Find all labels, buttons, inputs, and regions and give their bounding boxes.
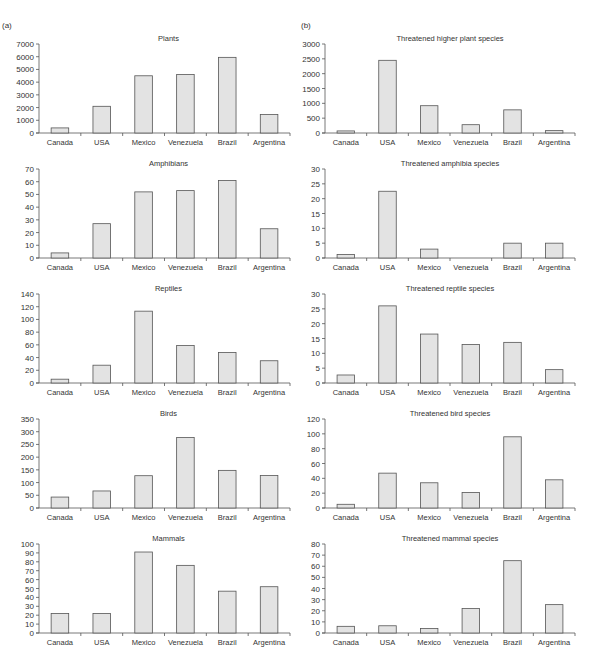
y-tick-label: 6000 xyxy=(16,53,34,62)
y-tick-label: 200 xyxy=(21,453,35,462)
y-tick-label: 0 xyxy=(316,629,321,638)
y-tick-label: 0 xyxy=(316,129,321,138)
x-category-label: USA xyxy=(94,513,109,522)
bar-brazil xyxy=(218,470,236,508)
y-tick-label: 100 xyxy=(21,540,35,549)
x-category-label: Mexico xyxy=(132,513,156,522)
bar-mexico xyxy=(135,476,153,508)
x-category-label: Venezuela xyxy=(453,638,489,647)
bar-argentina xyxy=(545,605,563,633)
bar-usa xyxy=(379,626,397,633)
x-category-label: Mexico xyxy=(132,138,156,147)
x-category-label: Venezuela xyxy=(168,638,204,647)
bar-usa xyxy=(379,191,397,258)
y-tick-label: 40 xyxy=(311,474,320,483)
y-tick-label: 20 xyxy=(25,229,34,238)
x-category-label: Mexico xyxy=(417,263,441,272)
y-tick-label: 0 xyxy=(30,129,35,138)
y-tick-label: 90 xyxy=(25,549,34,558)
bar-venezuela xyxy=(177,565,195,633)
chart-title: Threatened reptile species xyxy=(406,284,495,293)
x-category-label: Mexico xyxy=(132,638,156,647)
bar-canada xyxy=(51,253,69,258)
x-category-label: Canada xyxy=(333,513,360,522)
bar-venezuela xyxy=(177,191,195,258)
panel-label-a: (a) xyxy=(2,21,12,30)
x-category-label: Mexico xyxy=(417,138,441,147)
bar-mexico xyxy=(135,311,153,383)
x-category-label: Canada xyxy=(47,388,74,397)
y-tick-label: 350 xyxy=(21,415,35,424)
x-category-label: Brazil xyxy=(218,638,237,647)
x-category-label: Venezuela xyxy=(453,513,489,522)
chart-title: Threatened amphibia species xyxy=(401,159,500,168)
x-category-label: Brazil xyxy=(503,638,522,647)
x-category-label: Mexico xyxy=(417,638,441,647)
y-tick-label: 50 xyxy=(311,573,320,582)
x-category-label: Brazil xyxy=(503,138,522,147)
panel-label-b: (b) xyxy=(301,21,311,30)
x-category-label: Argentina xyxy=(538,638,571,647)
x-category-label: Venezuela xyxy=(453,388,489,397)
y-tick-label: 0 xyxy=(316,504,321,513)
bar-argentina xyxy=(545,131,563,133)
y-tick-label: 100 xyxy=(21,315,35,324)
chart-title: Plants xyxy=(158,34,179,43)
bar-usa xyxy=(93,106,111,133)
bar-canada xyxy=(51,497,69,508)
x-category-label: Brazil xyxy=(218,388,237,397)
x-category-label: Brazil xyxy=(218,138,237,147)
chart-plants: Plants01000200030004000500060007000Canad… xyxy=(0,30,298,155)
x-category-label: Venezuela xyxy=(453,263,489,272)
y-tick-label: 0 xyxy=(30,254,35,263)
y-tick-label: 2000 xyxy=(302,70,320,79)
x-category-label: Argentina xyxy=(253,138,286,147)
x-category-label: Argentina xyxy=(538,138,571,147)
bar-brazil xyxy=(504,243,522,258)
x-category-label: Canada xyxy=(47,513,74,522)
bar-venezuela xyxy=(462,609,480,633)
y-tick-label: 15 xyxy=(311,210,320,219)
bar-brazil xyxy=(504,561,522,633)
y-tick-label: 20 xyxy=(311,195,320,204)
y-tick-label: 10 xyxy=(25,241,34,250)
y-tick-label: 70 xyxy=(25,567,34,576)
y-tick-label: 0 xyxy=(30,629,35,638)
chart-title: Threatened higher plant species xyxy=(396,34,503,43)
bar-brazil xyxy=(504,437,522,508)
x-category-label: Brazil xyxy=(218,513,237,522)
x-category-label: Brazil xyxy=(218,263,237,272)
y-tick-label: 60 xyxy=(25,178,34,187)
bar-usa xyxy=(93,224,111,258)
y-tick-label: 0 xyxy=(30,504,35,513)
bar-brazil xyxy=(218,591,236,633)
chart-threatened-amphibia: Threatened amphibia species051015202530C… xyxy=(300,155,598,280)
y-tick-label: 80 xyxy=(25,328,34,337)
y-tick-label: 1500 xyxy=(302,85,320,94)
bar-canada xyxy=(337,626,355,633)
y-tick-label: 40 xyxy=(25,593,34,602)
chart-reptiles: Reptiles020406080100120140CanadaUSAMexic… xyxy=(0,280,298,405)
x-category-label: Canada xyxy=(333,388,360,397)
chart-amphibians: Amphibians010203040506070CanadaUSAMexico… xyxy=(0,155,298,280)
y-tick-label: 70 xyxy=(25,165,34,174)
bar-argentina xyxy=(260,229,278,258)
y-tick-label: 70 xyxy=(311,551,320,560)
chart-threatened-mammals: Threatened mammal species010203040506070… xyxy=(300,530,598,655)
chart-threatened-reptiles: Threatened reptile species051015202530Ca… xyxy=(300,280,598,405)
bar-argentina xyxy=(260,475,278,508)
y-tick-label: 20 xyxy=(311,489,320,498)
y-tick-label: 20 xyxy=(25,611,34,620)
x-category-label: Argentina xyxy=(538,513,571,522)
bar-venezuela xyxy=(462,344,480,383)
bar-venezuela xyxy=(462,125,480,133)
y-tick-label: 20 xyxy=(25,366,34,375)
y-tick-label: 1000 xyxy=(302,99,320,108)
bar-canada xyxy=(51,128,69,133)
bar-mexico xyxy=(420,334,438,383)
x-category-label: Mexico xyxy=(132,263,156,272)
y-tick-label: 120 xyxy=(21,303,35,312)
y-tick-label: 3000 xyxy=(302,40,320,49)
x-category-label: Argentina xyxy=(538,263,571,272)
bar-usa xyxy=(379,473,397,508)
